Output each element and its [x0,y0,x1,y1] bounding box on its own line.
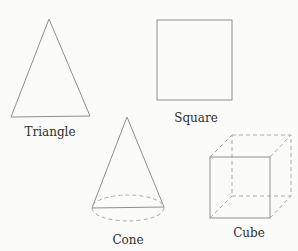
cone-right-edge [127,117,164,207]
square-label: Square [174,111,218,125]
square-shape [157,20,232,100]
cone-label: Cone [112,233,143,247]
triangle-shape [11,19,90,117]
triangle-label: Triangle [24,125,75,139]
cone-shape [92,117,164,221]
cube-edge-bottom-right [270,196,291,218]
cube-shape [210,135,291,218]
cube-edge-top-right [270,135,291,157]
square-outline [157,20,232,100]
cube-edge-top-left [210,135,232,157]
cube-front-face [210,157,270,218]
triangle-outline [11,19,90,117]
cube-edge-bottom-left [210,196,232,218]
shapes-diagram: Triangle Square Cone Cube [0,0,298,251]
cone-left-edge [92,117,127,208]
cube-label: Cube [233,226,265,240]
cone-base-diameter [92,207,164,208]
